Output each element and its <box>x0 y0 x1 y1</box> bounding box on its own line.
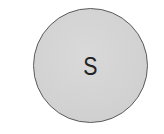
letter-badge: S <box>33 8 148 123</box>
badge-letter: S <box>83 54 97 79</box>
